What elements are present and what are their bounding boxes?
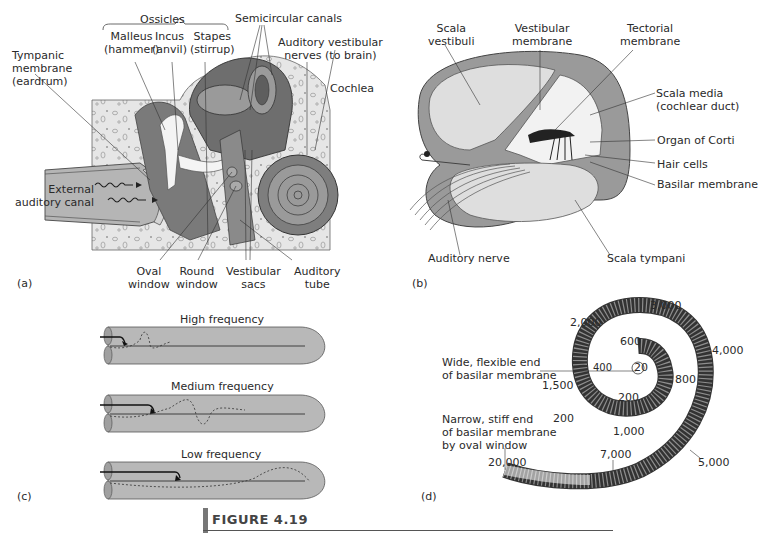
sm-line-2: (cochlear duct) bbox=[656, 100, 739, 113]
freq-4000: 4,000 bbox=[712, 344, 744, 357]
hair-cells-label: Hair cells bbox=[657, 158, 708, 171]
canal-line-1: External bbox=[15, 183, 94, 196]
malleus-name: Malleus bbox=[104, 30, 159, 43]
freq-600: 600 bbox=[620, 335, 641, 348]
sv-line-1: Scala bbox=[428, 22, 474, 35]
panel-b-label: (b) bbox=[412, 277, 428, 290]
semicircular-canals-label: Semicircular canals bbox=[235, 12, 342, 25]
wide-end-label: Wide, flexible end of basilar membrane bbox=[442, 356, 557, 382]
malleus-common: (hammer) bbox=[104, 43, 159, 56]
low-frequency-label: Low frequency bbox=[181, 448, 261, 461]
vsacs-line-2: sacs bbox=[226, 278, 281, 291]
atube-line-2: tube bbox=[294, 278, 341, 291]
canal-line-2: auditory canal bbox=[15, 196, 94, 209]
tympanic-line-3: (eardrum) bbox=[12, 75, 72, 88]
freq-7000: 7,000 bbox=[600, 448, 632, 461]
freq-3000: 3,000 bbox=[650, 299, 682, 312]
narrow-line-2: of basilar membrane bbox=[442, 426, 557, 439]
figure-title: FIGURE 4.19 bbox=[212, 512, 308, 527]
wide-line-1: Wide, flexible end bbox=[442, 356, 557, 369]
medium-frequency-label: Medium frequency bbox=[171, 380, 274, 393]
freq-1000: 1,000 bbox=[613, 425, 645, 438]
vsacs-line-1: Vestibular bbox=[226, 265, 281, 278]
oval-window-label: Oval window bbox=[128, 265, 170, 291]
scala-vestibuli-label: Scala vestibuli bbox=[428, 22, 474, 48]
ossicles-label: Ossicles bbox=[140, 13, 185, 26]
oval-line-1: Oval bbox=[128, 265, 170, 278]
panel-a-label: (a) bbox=[17, 277, 32, 290]
vestibular-sacs-label: Vestibular sacs bbox=[226, 265, 281, 291]
freq-2000: 2,000 bbox=[570, 316, 602, 329]
freq-20000: 20,000 bbox=[488, 456, 527, 469]
stapes-name: Stapes bbox=[190, 30, 235, 43]
tm-line-2: membrane bbox=[620, 35, 680, 48]
freq-1500: 1,500 bbox=[542, 379, 574, 392]
narrow-line-3: by oval window bbox=[442, 439, 557, 452]
sm-line-1: Scala media bbox=[656, 87, 739, 100]
round-window-label: Round window bbox=[176, 265, 218, 291]
narrow-line-1: Narrow, stiff end bbox=[442, 413, 557, 426]
panel-c-label: (c) bbox=[17, 490, 32, 503]
oval-line-2: window bbox=[128, 278, 170, 291]
tm-line-1: Tectorial bbox=[620, 22, 680, 35]
wide-line-2: of basilar membrane bbox=[442, 369, 557, 382]
sv-line-2: vestibuli bbox=[428, 35, 474, 48]
tympanic-line-1: Tympanic bbox=[12, 49, 72, 62]
tectorial-membrane-label: Tectorial membrane bbox=[620, 22, 680, 48]
scala-tympani-label: Scala tympani bbox=[607, 252, 685, 265]
auditory-vestibular-nerves-label: Auditory vestibular nerves (to brain) bbox=[278, 36, 383, 62]
high-frequency-label: High frequency bbox=[180, 313, 264, 326]
cochlea-cross-section-illustration bbox=[410, 45, 655, 255]
incus-name: Incus bbox=[152, 30, 187, 43]
freq-400: 400 bbox=[593, 361, 612, 374]
vm-line-1: Vestibular bbox=[512, 22, 572, 35]
tympanic-line-2: membrane bbox=[12, 62, 72, 75]
vm-line-2: membrane bbox=[512, 35, 572, 48]
malleus-label: Malleus (hammer) bbox=[104, 30, 159, 56]
cochlea-label: Cochlea bbox=[330, 82, 374, 95]
scala-media-label: Scala media (cochlear duct) bbox=[656, 87, 739, 113]
freq-200-inner: 200 bbox=[618, 391, 639, 404]
incus-common: (anvil) bbox=[152, 43, 187, 56]
narrow-end-label: Narrow, stiff end of basilar membrane by… bbox=[442, 413, 557, 452]
frequency-tubes-illustration bbox=[100, 327, 325, 499]
atube-line-1: Auditory bbox=[294, 265, 341, 278]
stapes-common: (stirrup) bbox=[190, 43, 235, 56]
organ-of-corti-label: Organ of Corti bbox=[657, 134, 735, 147]
freq-20: 20 bbox=[634, 361, 648, 374]
round-line-2: window bbox=[176, 278, 218, 291]
stapes-label: Stapes (stirrup) bbox=[190, 30, 235, 56]
tympanic-membrane-label: Tympanic membrane (eardrum) bbox=[12, 49, 72, 88]
incus-label: Incus (anvil) bbox=[152, 30, 187, 56]
auditory-tube-label: Auditory tube bbox=[294, 265, 341, 291]
nerves-line-1: Auditory vestibular bbox=[278, 36, 383, 49]
freq-5000: 5,000 bbox=[698, 456, 730, 469]
freq-800: 800 bbox=[675, 373, 696, 386]
round-line-1: Round bbox=[176, 265, 218, 278]
external-auditory-canal-label: External auditory canal bbox=[15, 183, 94, 209]
basilar-membrane-label: Basilar membrane bbox=[657, 178, 758, 191]
freq-200-outer: 200 bbox=[553, 412, 574, 425]
nerves-line-2: nerves (to brain) bbox=[278, 49, 383, 62]
panel-d-label: (d) bbox=[421, 490, 437, 503]
auditory-nerve-label: Auditory nerve bbox=[428, 252, 510, 265]
vestibular-membrane-label: Vestibular membrane bbox=[512, 22, 572, 48]
figure-rule bbox=[203, 530, 613, 531]
